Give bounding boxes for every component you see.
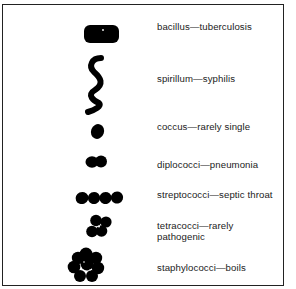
streptococci-chain-icon: [74, 189, 126, 206]
label-streptococci: streptococci—septic throat: [157, 189, 273, 200]
bacillus-rod-icon: [84, 25, 119, 43]
label-diplococci: diplococci—pneumonia: [157, 159, 258, 170]
label-bacillus: bacillus—tuberculosis: [157, 21, 252, 32]
spirillum-spiral-icon: [88, 58, 101, 112]
label-spirillum: spirillum—syphilis: [157, 73, 235, 84]
label-coccus: coccus—rarely single: [157, 121, 250, 132]
tetracocci-four-icon: [86, 215, 111, 238]
coccus-sphere-icon: [89, 122, 106, 141]
label-tetracocci-line2: pathogenic: [157, 231, 233, 242]
bacteria-shapes-illustration: [0, 0, 296, 289]
label-tetracocci-line1: tetracocci—rarely: [157, 220, 233, 231]
label-tetracocci: tetracocci—rarely pathogenic: [157, 220, 233, 242]
label-staphylococci: staphylococci—boils: [157, 262, 246, 273]
staphylococci-cluster-icon: [68, 248, 105, 283]
diplococci-paired-icon: [86, 156, 108, 168]
